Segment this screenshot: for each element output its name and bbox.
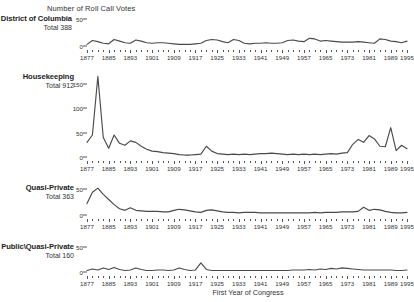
panel-title: Public\Quasi-Private [0,243,74,252]
x-axis-tick [396,276,397,278]
x-axis-tick [326,161,327,164]
x-axis-tick [152,276,153,279]
x-axis-tick [402,276,403,278]
panel-total: Total 160 [0,252,74,260]
x-axis-tick [402,161,403,163]
x-axis-tick [353,276,354,278]
y-axis-tick-label: 50 [76,129,83,136]
panel-label-block: Housekeeping Total 912 [0,73,74,89]
y-axis-tick [83,83,87,84]
x-axis-tick [163,50,164,52]
x-axis-tick [239,276,240,279]
y-axis-tick-label: 0 [80,154,83,161]
plot-area-3: 0501877188518931901190919171925193319411… [87,244,407,272]
x-axis-tick-label: 1901 [145,165,159,172]
x-axis-tick [391,161,392,164]
x-axis-tick [331,161,332,163]
x-axis-tick-label: 1981 [362,54,376,61]
x-axis-tick [239,161,240,164]
x-axis-tick [201,50,202,52]
x-axis-tick [98,50,99,52]
series-line [87,74,407,157]
x-axis-tick [255,50,256,52]
x-axis-tick-label: 1933 [232,54,246,61]
x-axis-tick [336,219,337,221]
x-axis-tick [293,50,294,52]
x-axis-tick [223,50,224,52]
x-axis-tick [277,50,278,52]
x-axis-tick [147,161,148,163]
x-axis-tick [396,161,397,163]
x-axis-tick [87,50,88,53]
x-axis-tick [255,276,256,278]
x-axis-tick [239,219,240,222]
x-axis-tick [120,276,121,278]
x-axis-tick [212,161,213,163]
x-axis-tick [364,161,365,163]
x-axis-tick-label: 1877 [80,280,94,287]
x-axis-tick [261,161,262,164]
x-axis-tick [233,219,234,221]
x-axis-tick [364,219,365,221]
x-axis-tick [342,161,343,163]
x-axis-tick-label: 1925 [210,54,224,61]
series-line [87,16,407,46]
x-axis-tick-label: 1949 [275,54,289,61]
y-axis-tick-label: 50 [76,15,83,22]
x-axis-tick [87,219,88,222]
x-axis-tick-label: 1909 [167,54,181,61]
x-axis-tick [130,161,131,164]
x-axis-tick [158,276,159,278]
x-axis-tick [347,50,348,53]
x-axis-tick [147,219,148,221]
x-axis-tick-label: 1989 [384,280,398,287]
x-axis-tick-label: 1885 [102,165,116,172]
x-axis-tick [212,219,213,221]
x-axis-tick-label: 1957 [297,280,311,287]
x-axis-tick [293,161,294,163]
x-axis-tick [244,50,245,52]
x-axis-tick [353,219,354,221]
x-axis-tick-label: 1877 [80,54,94,61]
x-axis-tick-label: 1901 [145,223,159,230]
x-axis-tick [174,161,175,164]
x-axis-tick [250,219,251,221]
x-axis-tick-label: 1995 [400,223,414,230]
x-axis-tick [391,219,392,222]
x-axis-tick-label: 1885 [102,223,116,230]
y-axis-tick-label: 50 [76,243,83,250]
x-axis-tick [277,276,278,278]
x-axis-tick [282,50,283,53]
x-axis-tick [168,50,169,52]
x-axis-tick-label: 1941 [254,280,268,287]
x-axis-tick [141,50,142,52]
x-axis-tick [331,50,332,52]
x-axis-tick [304,161,305,164]
x-axis-tick-label: 1885 [102,54,116,61]
x-axis-tick-label: 1981 [362,280,376,287]
x-axis-tick-label: 1925 [210,165,224,172]
x-axis-tick [109,161,110,164]
x-axis-tick [282,161,283,164]
x-axis-tick [136,50,137,52]
x-axis-tick [407,276,408,279]
x-axis-tick [233,276,234,278]
x-axis-tick-label: 1909 [167,280,181,287]
x-axis-tick [195,161,196,164]
plot-area-2: 0501877188518931901190919171925193319411… [87,185,407,215]
x-axis-tick-label: 1981 [362,223,376,230]
x-axis-tick [364,276,365,278]
x-axis-tick [114,50,115,52]
x-axis-tick [163,219,164,221]
y-axis-tick [83,272,87,273]
series-line [87,185,407,215]
x-axis-tick [364,50,365,52]
x-axis-tick [92,276,93,278]
x-axis-tick [288,276,289,278]
x-axis-tick-label: 1941 [254,223,268,230]
x-axis-tick-label: 1941 [254,165,268,172]
x-axis-tick [288,219,289,221]
x-axis-tick [342,219,343,221]
plot-area-0: 0501877188518931901190919171925193319411… [87,16,407,46]
